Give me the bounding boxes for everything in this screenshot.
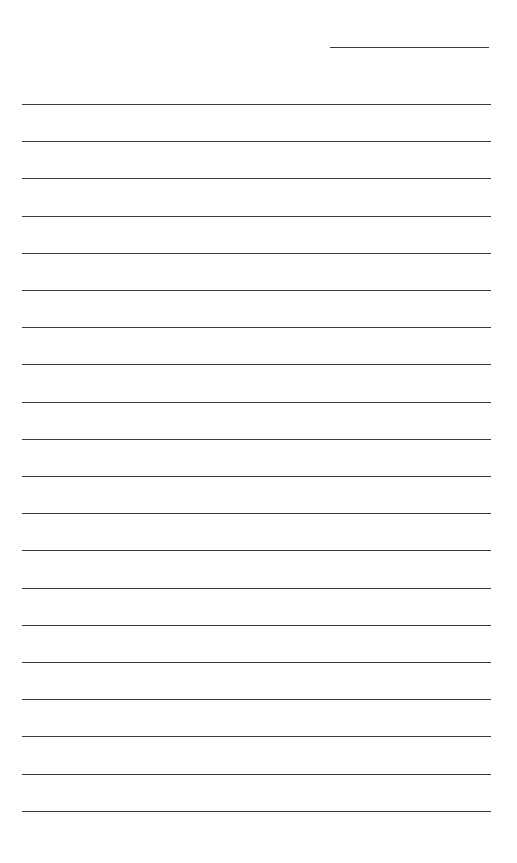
ruled-line (22, 699, 491, 700)
ruled-line (22, 588, 491, 589)
ruled-line (22, 141, 491, 142)
ruled-line (22, 662, 491, 663)
ruled-line (22, 178, 491, 179)
lined-paper-page (0, 0, 517, 863)
ruled-line (22, 253, 491, 254)
ruled-line (22, 402, 491, 403)
ruled-line (22, 550, 491, 551)
ruled-line (22, 104, 491, 105)
ruled-line (22, 216, 491, 217)
ruled-line (22, 625, 491, 626)
ruled-line (22, 513, 491, 514)
ruled-line (22, 736, 491, 737)
ruled-line (22, 327, 491, 328)
ruled-line (22, 476, 491, 477)
ruled-line (22, 364, 491, 365)
ruled-line (22, 290, 491, 291)
header-date-line (330, 47, 489, 48)
ruled-line (22, 439, 491, 440)
ruled-line (22, 774, 491, 775)
ruled-line (22, 811, 491, 812)
